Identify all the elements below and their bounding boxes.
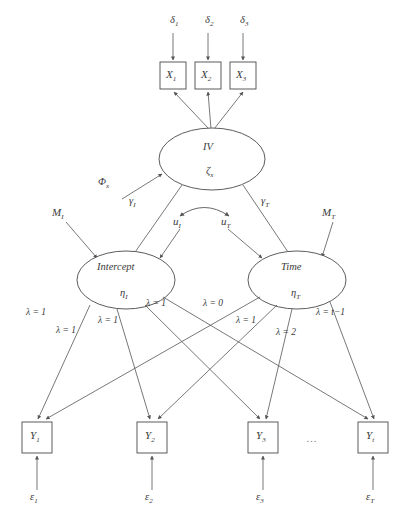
path-label-gamma-i: γI [129, 196, 135, 209]
path-label-gamma-t: γT [261, 196, 269, 209]
edge-time-yt [330, 302, 374, 419]
edge-intercept-y1 [38, 305, 90, 419]
edge-time-y1 [46, 297, 260, 419]
edge-iv-x2 [208, 92, 211, 129]
disturbance-label-u-i: uI [173, 216, 181, 230]
loading-label-time-last: λ = t−1 [316, 308, 345, 318]
edge-time-y3 [266, 309, 292, 419]
loading-label-intercept-2: λ = 1 [56, 326, 76, 336]
loading-label-time-2: λ = 2 [276, 328, 296, 338]
variance-label-phi-x: Φx [98, 177, 109, 190]
delta-label-1: δ1 [170, 15, 178, 28]
edge-iv-x1 [174, 92, 209, 129]
observed-label-y2: Y2 [145, 430, 155, 444]
latent-label-time: Time [281, 262, 301, 273]
latent-ellipse-iv [159, 128, 265, 190]
loading-label-intercept-3: λ = 1 [98, 316, 118, 326]
mean-label-m-i: MI [52, 207, 64, 221]
loading-label-intercept-4: λ = 1 [146, 299, 166, 309]
disturbance-label-u-t: uT [221, 216, 230, 230]
loading-label-time-0: λ = 0 [203, 299, 223, 309]
disturbance-label-zeta-x: ζx [206, 166, 213, 179]
indicator-label-x1: X1 [166, 69, 176, 83]
edge-ut-time [228, 229, 262, 258]
eta-label-intercept: ηI [120, 288, 128, 301]
loading-label-intercept-1: λ = 1 [26, 308, 46, 318]
edge-intercept-y2 [117, 309, 150, 419]
indicator-label-x3: X3 [236, 69, 246, 83]
latent-label-iv: IV [203, 142, 213, 153]
loading-label-time-1: λ = 1 [236, 316, 256, 326]
indicator-label-x2: X2 [201, 69, 211, 83]
residual-label-eps2: ε2 [145, 492, 153, 505]
ellipsis-indicator: … [306, 433, 318, 444]
mean-label-m-t: MT [322, 207, 335, 221]
delta-label-2: δ2 [205, 15, 213, 28]
edge-ui-intercept [160, 229, 180, 258]
observed-label-y1: Y1 [30, 430, 40, 444]
edge-time-y2 [158, 305, 277, 419]
residual-label-eps3: ε3 [256, 492, 264, 505]
latent-label-intercept: Intercept [97, 262, 135, 273]
delta-label-3: δ3 [240, 15, 248, 28]
observed-label-yt: Yt [366, 430, 374, 444]
edge-mi-intercept [66, 222, 97, 258]
edge-iv-x3 [214, 92, 243, 129]
sem-path-diagram: δ1 δ2 δ3 X1 X2 X3 IV ζx Φx γI γT uI uT M… [0, 0, 400, 525]
eta-label-time: ηT [291, 288, 300, 301]
edge-phix-iv [122, 174, 162, 199]
edge-mt-time [322, 222, 333, 257]
observed-label-y3: Y3 [256, 430, 266, 444]
residual-label-eps1: ε1 [30, 492, 38, 505]
residual-label-epst: εT [366, 492, 374, 505]
diagram-canvas [0, 0, 400, 525]
